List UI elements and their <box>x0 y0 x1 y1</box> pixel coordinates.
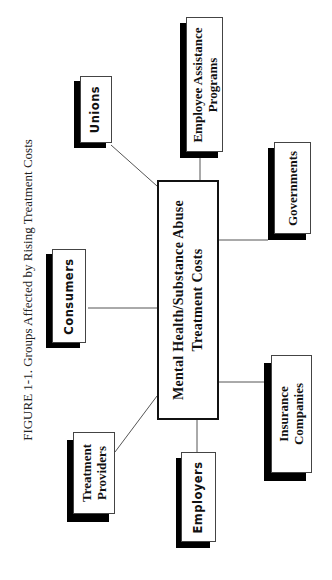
node-label-line1: Insurance <box>277 383 292 445</box>
node-governments: Governments <box>268 142 311 240</box>
node-label: Consumers <box>62 258 77 334</box>
node-label-line2: Programs <box>205 27 220 142</box>
node-label: Unions <box>89 86 104 133</box>
node-employers: Employers <box>176 452 216 548</box>
node-label-line2: Providers <box>94 444 109 502</box>
node-label-line1: Treatment <box>79 444 94 502</box>
node-box: Consumers <box>52 249 86 343</box>
node-box: Employers <box>181 452 216 542</box>
node-label: Employers <box>191 461 206 533</box>
node-label-line2: Companies <box>292 383 307 445</box>
connector-unions <box>111 145 157 186</box>
node-treatment-providers: Treatment Providers <box>67 432 115 522</box>
node-label-line1: Unions <box>89 86 104 133</box>
node-label-line1: Employee Assistance <box>190 27 205 142</box>
node-label: Treatment Providers <box>79 444 109 502</box>
node-label: Employee Assistance Programs <box>190 27 220 142</box>
node-unions: Unions <box>74 76 112 148</box>
node-box: Governments <box>274 142 311 234</box>
connector-treatment-providers <box>115 396 157 452</box>
node-box: Insurance Companies <box>271 355 312 473</box>
node-label-line1: Employers <box>191 461 206 533</box>
node-label-line1: Governments <box>285 150 300 225</box>
node-employee-assistance-programs: Employee Assistance Programs <box>180 17 223 158</box>
node-box: Employee Assistance Programs <box>186 17 223 152</box>
center-label-line2: Treatment Costs <box>188 200 207 400</box>
node-label-line1: Consumers <box>62 258 77 334</box>
node-label: Governments <box>285 150 300 225</box>
center-node-label: Mental Health/Substance Abuse Treatment … <box>169 200 207 400</box>
node-box: Unions <box>80 76 112 143</box>
node-consumers: Consumers <box>46 249 86 348</box>
node-insurance-companies: Insurance Companies <box>264 355 312 481</box>
node-box: Treatment Providers <box>73 432 115 514</box>
node-label: Insurance Companies <box>277 383 307 445</box>
center-node-treatment-costs: Mental Health/Substance Abuse Treatment … <box>157 180 219 420</box>
center-label-line1: Mental Health/Substance Abuse <box>169 200 188 400</box>
